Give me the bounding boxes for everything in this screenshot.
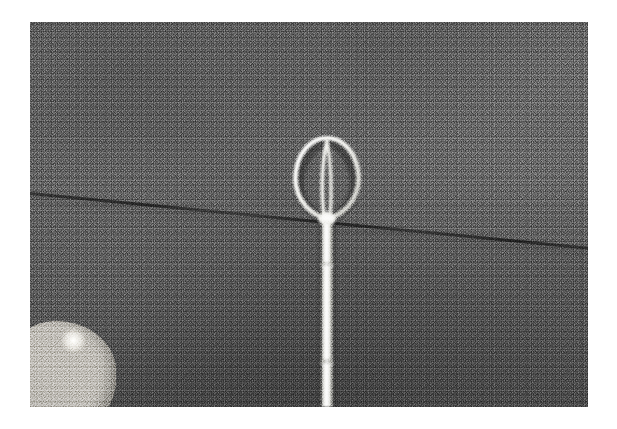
- page-root: [0, 0, 617, 429]
- film-grain-layer-fine: [30, 22, 588, 407]
- photograph: [30, 22, 588, 407]
